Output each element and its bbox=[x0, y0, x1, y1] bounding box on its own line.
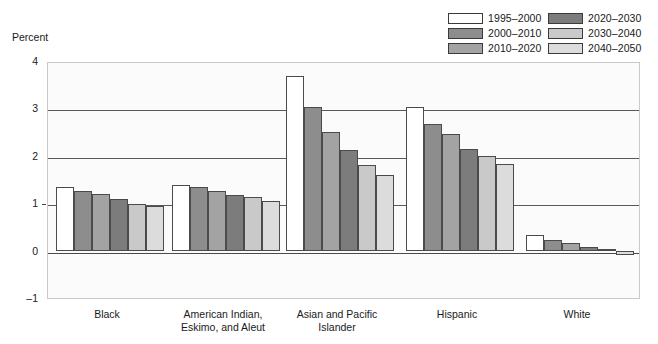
y-axis-tick-mark bbox=[42, 204, 46, 205]
legend-label: 2000–2010 bbox=[488, 28, 541, 39]
bar bbox=[496, 164, 514, 250]
y-axis-tick-label: 0 bbox=[0, 245, 38, 257]
bar bbox=[598, 249, 616, 251]
bar bbox=[128, 204, 146, 250]
legend-item: 2010–2020 bbox=[448, 41, 548, 56]
legend-item: 2030–2040 bbox=[548, 26, 648, 41]
y-axis-tick-label: –1 bbox=[0, 292, 38, 304]
bar bbox=[616, 251, 634, 256]
bar bbox=[262, 201, 280, 251]
bar bbox=[190, 187, 208, 251]
bar bbox=[478, 156, 496, 251]
bar bbox=[322, 132, 340, 251]
legend-item: 1995–2000 bbox=[448, 11, 548, 26]
bar bbox=[172, 185, 190, 250]
legend-swatch bbox=[548, 43, 583, 54]
y-axis-tick-label: 2 bbox=[0, 150, 38, 162]
bar bbox=[56, 187, 74, 251]
bar bbox=[562, 243, 580, 251]
y-axis-tick-label: 4 bbox=[0, 55, 38, 67]
x-axis-label-line: White bbox=[497, 308, 657, 321]
bar-group bbox=[406, 63, 510, 298]
legend-label: 1995–2000 bbox=[488, 13, 541, 24]
legend-label: 2010–2020 bbox=[488, 43, 541, 54]
bar bbox=[208, 191, 226, 250]
bar bbox=[580, 247, 598, 251]
legend-item: 2020–2030 bbox=[548, 11, 648, 26]
bar bbox=[286, 76, 304, 250]
legend-swatch bbox=[548, 28, 583, 39]
bar-group bbox=[526, 63, 630, 298]
legend-label: 2030–2040 bbox=[588, 28, 641, 39]
y-axis-tick-label: 1 bbox=[0, 197, 38, 209]
y-axis-title: Percent bbox=[12, 31, 48, 43]
bar bbox=[74, 191, 92, 250]
legend-swatch bbox=[548, 13, 583, 24]
bar bbox=[358, 165, 376, 250]
bar bbox=[544, 240, 562, 250]
bar bbox=[424, 124, 442, 251]
bar bbox=[406, 107, 424, 250]
legend-swatch bbox=[448, 13, 483, 24]
chart-legend: 1995–20002020–20302000–20102030–20402010… bbox=[448, 11, 648, 57]
legend-label: 2020–2030 bbox=[588, 13, 641, 24]
bar bbox=[226, 195, 244, 251]
bar-group bbox=[172, 63, 276, 298]
bar-group bbox=[56, 63, 160, 298]
bar bbox=[92, 194, 110, 251]
legend-swatch bbox=[448, 43, 483, 54]
bar-group bbox=[286, 63, 390, 298]
bar bbox=[376, 175, 394, 251]
legend-label: 2040–2050 bbox=[588, 43, 641, 54]
legend-item: 2000–2010 bbox=[448, 26, 548, 41]
bar bbox=[460, 149, 478, 251]
legend-swatch bbox=[448, 28, 483, 39]
plot-area bbox=[47, 62, 640, 299]
x-axis-label-line: Islander bbox=[257, 321, 417, 334]
population-growth-bar-chart: Percent 1995–20002020–20302000–20102030–… bbox=[0, 0, 658, 344]
bar bbox=[340, 150, 358, 250]
bar bbox=[442, 134, 460, 250]
x-axis-category-label: White bbox=[497, 308, 657, 321]
bar bbox=[244, 197, 262, 251]
bar bbox=[110, 199, 128, 250]
bar bbox=[304, 107, 322, 250]
legend-item: 2040–2050 bbox=[548, 41, 648, 56]
y-axis-tick-label: 3 bbox=[0, 102, 38, 114]
bar bbox=[526, 235, 544, 251]
bar bbox=[146, 206, 164, 251]
